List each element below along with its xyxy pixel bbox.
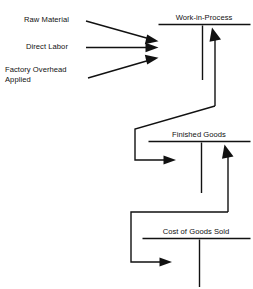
flow-arrow-direct-labor <box>86 43 159 53</box>
input-label-direct-labor: Direct Labor <box>26 42 68 52</box>
fg-return-arrowhead <box>222 145 234 159</box>
cost-flow-diagram: Raw Material Direct Labor Factory Overhe… <box>0 0 253 289</box>
raw-material-leader <box>86 21 150 39</box>
factory-overhead-arrowhead <box>145 55 159 65</box>
fg-to-cogs-path <box>131 212 228 262</box>
input-label-raw-material: Raw Material <box>24 15 69 25</box>
input-label-factory-overhead-applied-line1: Factory Overhead <box>5 65 67 75</box>
account-title-cost-of-goods-sold: Cost of Goods Sold <box>142 227 250 237</box>
factory-overhead-leader <box>88 60 150 78</box>
account-finished-goods <box>149 142 251 194</box>
direct-labor-arrowhead <box>146 43 159 53</box>
account-cost-of-goods-sold <box>143 239 251 288</box>
raw-material-arrowhead <box>145 35 159 45</box>
account-title-finished-goods: Finished Goods <box>148 130 250 140</box>
flow-arrow-factory-overhead-applied <box>88 55 159 78</box>
account-work-in-process <box>159 25 251 81</box>
flow-finished-goods-to-cost-of-goods-sold <box>131 145 234 267</box>
fg-to-cogs-entry-arrowhead <box>160 257 173 266</box>
wip-return-arrowhead <box>210 28 222 42</box>
flow-arrow-raw-material <box>86 21 159 44</box>
wip-to-fg-entry-arrowhead <box>164 155 177 164</box>
account-title-work-in-process: Work-in-Process <box>158 13 250 23</box>
input-label-factory-overhead-applied-line2: Applied <box>5 75 31 85</box>
